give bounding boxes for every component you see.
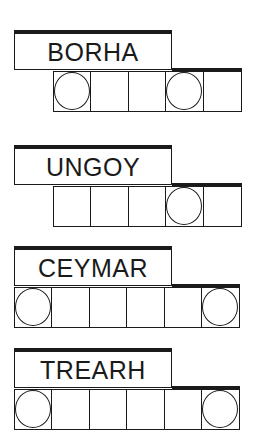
scrambled-word: UNGOY: [46, 151, 140, 182]
answer-cells: [54, 186, 242, 227]
answer-cell[interactable]: [90, 186, 129, 227]
answer-cell[interactable]: [203, 71, 242, 112]
answer-cell-circled[interactable]: [14, 287, 53, 328]
answer-cell[interactable]: [203, 186, 242, 227]
answer-cell-circled[interactable]: [201, 287, 240, 328]
jumble-puzzle-3: CEYMAR: [0, 246, 273, 336]
jumble-puzzle-2: UNGOY: [0, 145, 273, 235]
answer-cell[interactable]: [89, 389, 128, 430]
answer-cell[interactable]: [128, 71, 167, 112]
scrambled-word: CEYMAR: [38, 252, 148, 283]
answer-cell[interactable]: [89, 287, 128, 328]
circle-marker-icon: [54, 72, 90, 110]
circle-marker-icon: [15, 390, 51, 428]
answer-cell[interactable]: [51, 287, 90, 328]
answer-cell[interactable]: [128, 186, 167, 227]
answer-cell[interactable]: [51, 389, 90, 430]
answer-cell[interactable]: [126, 389, 165, 430]
answer-cells: [15, 389, 240, 430]
scrambled-word-box: CEYMAR: [14, 246, 172, 286]
jumble-puzzle-1: BORHA: [0, 30, 273, 120]
answer-cell-circled[interactable]: [201, 389, 240, 430]
scrambled-word-box: TREARH: [14, 348, 172, 388]
circle-marker-icon: [166, 187, 202, 225]
circle-marker-icon: [166, 72, 202, 110]
answer-cells: [15, 287, 240, 328]
scrambled-word-box: UNGOY: [14, 145, 172, 185]
answer-cell-circled[interactable]: [14, 389, 53, 430]
answer-cell[interactable]: [164, 389, 203, 430]
answer-cell-circled[interactable]: [53, 71, 92, 112]
jumble-puzzle-4: TREARH: [0, 348, 273, 438]
answer-cells: [54, 71, 242, 112]
scrambled-word: TREARH: [40, 354, 146, 385]
answer-cell[interactable]: [126, 287, 165, 328]
answer-cell[interactable]: [53, 186, 92, 227]
answer-cell-circled[interactable]: [165, 186, 204, 227]
circle-marker-icon: [202, 288, 238, 326]
answer-cell-circled[interactable]: [165, 71, 204, 112]
scrambled-word-box: BORHA: [14, 30, 172, 70]
circle-marker-icon: [202, 390, 238, 428]
circle-marker-icon: [15, 288, 51, 326]
answer-cell[interactable]: [164, 287, 203, 328]
scrambled-word: BORHA: [47, 36, 138, 67]
answer-cell[interactable]: [90, 71, 129, 112]
